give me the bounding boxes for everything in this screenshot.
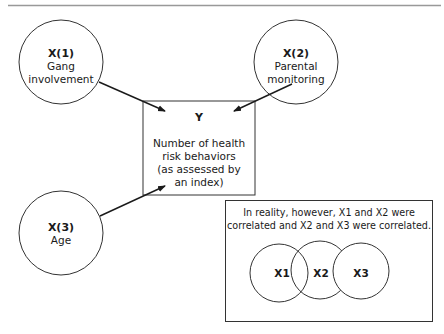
node-x3-label: X(3) bbox=[48, 221, 74, 234]
node-y: Y Number of health risk behaviors (as as… bbox=[143, 101, 255, 195]
node-y-line4: an index) bbox=[174, 176, 223, 188]
venn-label-x3: X3 bbox=[353, 267, 368, 279]
node-y-line3: (as assessed by bbox=[157, 163, 240, 175]
node-x1: X(1) Gang involvement bbox=[19, 20, 103, 104]
node-x2: X(2) Parental monitoring bbox=[254, 20, 338, 104]
correlation-note-line1: In reality, however, X1 and X2 were bbox=[243, 207, 415, 218]
correlation-note-line2: correlated and X2 and X3 were correlated… bbox=[227, 220, 431, 231]
node-x2-line1: Parental bbox=[275, 60, 318, 72]
node-x1-line2: involvement bbox=[28, 73, 93, 85]
arrow-x1-to-y bbox=[99, 82, 165, 111]
venn-label-x2: X2 bbox=[313, 267, 328, 279]
node-y-label: Y bbox=[194, 111, 204, 124]
venn-label-x1: X1 bbox=[274, 267, 289, 279]
node-x3-line1: Age bbox=[51, 234, 71, 246]
node-y-line2: risk behaviors bbox=[162, 150, 236, 162]
correlation-box: In reality, however, X1 and X2 were corr… bbox=[226, 201, 433, 322]
node-y-line1: Number of health bbox=[153, 137, 245, 149]
node-x1-label: X(1) bbox=[48, 47, 74, 60]
node-x2-label: X(2) bbox=[283, 47, 309, 60]
diagram-canvas: X(1) Gang involvement X(2) Parental moni… bbox=[0, 0, 444, 334]
node-x1-line1: Gang bbox=[47, 60, 75, 72]
node-x2-line2: monitoring bbox=[267, 73, 324, 85]
correlation-box-frame bbox=[226, 201, 433, 322]
node-x3: X(3) Age bbox=[19, 191, 103, 275]
arrow-x3-to-y bbox=[100, 186, 165, 216]
